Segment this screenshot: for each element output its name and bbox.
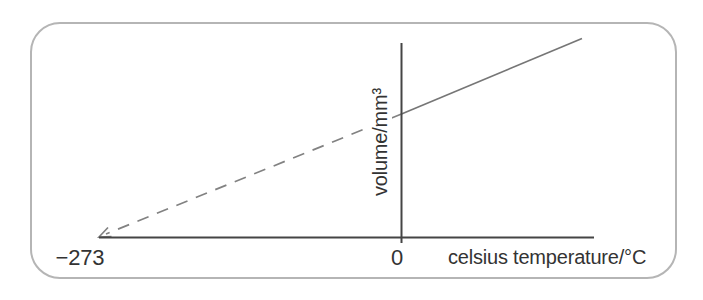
x-tick-minus-273: −273 [50, 245, 110, 271]
extrapolation-arrowhead-icon [99, 228, 112, 238]
figure: volume/mm³ −273 0 celsius temperature/°C [0, 0, 703, 300]
y-axis-label: volume/mm³ [368, 67, 392, 217]
x-axis-label: celsius temperature/°C [448, 246, 646, 269]
x-tick-zero: 0 [382, 245, 412, 271]
extrapolated-line [106, 114, 402, 234]
measured-line [402, 39, 583, 115]
